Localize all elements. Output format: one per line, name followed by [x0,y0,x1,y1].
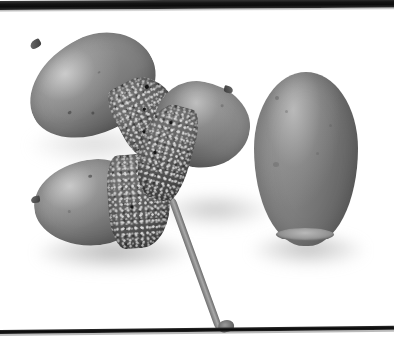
acorn-right-nut [254,72,358,246]
acorn-right-basal-scar [276,228,334,241]
acorn-upper-left-tip [29,38,43,50]
acorn-photograph: Black and white photograph of four acorn… [0,0,394,348]
